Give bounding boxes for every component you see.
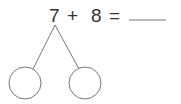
- addend-1: 7: [49, 5, 60, 26]
- number-bond-diagram: 7 + 8 =: [0, 0, 181, 104]
- equals-sign: =: [109, 5, 120, 26]
- right-part-circle[interactable]: [69, 67, 101, 99]
- bond-line-left: [33, 25, 55, 69]
- addend-2: 8: [91, 5, 102, 26]
- plus-sign: +: [67, 5, 78, 26]
- left-part-circle[interactable]: [9, 67, 41, 99]
- bond-line-right: [55, 25, 79, 69]
